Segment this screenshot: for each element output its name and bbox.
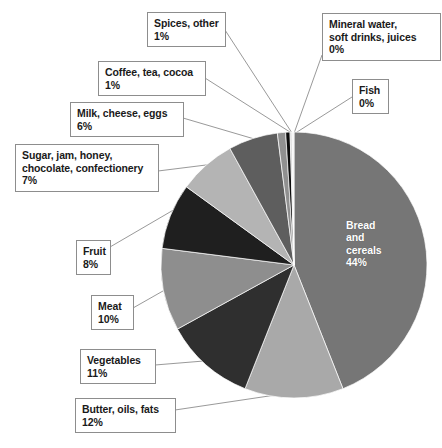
pie-chart-figure: Bread and cereals 44% Spices, other 1% M…	[0, 0, 442, 448]
callout-meat[interactable]: Meat 10%	[91, 295, 134, 330]
callout-mineral-water[interactable]: Mineral water, soft drinks, juices 0%	[322, 13, 441, 61]
callout-vegetables[interactable]: Vegetables 11%	[80, 349, 156, 384]
leader-line-fish	[296, 97, 353, 133]
callout-milk-cheese-eggs[interactable]: Milk, cheese, eggs 6%	[70, 102, 184, 137]
callout-fruit[interactable]: Fruit 8%	[76, 240, 111, 275]
callout-spices-other[interactable]: Spices, other 1%	[147, 12, 226, 47]
leader-line-spices-other	[225, 30, 292, 133]
callout-fish[interactable]: Fish 0%	[352, 79, 389, 114]
callout-butter-oils-fats[interactable]: Butter, oils, fats 12%	[75, 398, 176, 433]
callout-coffee-tea-cocoa[interactable]: Coffee, tea, cocoa 1%	[98, 61, 206, 96]
slice-label-bread-and-cereals: Bread and cereals 44%	[346, 219, 382, 269]
leader-line-mineral-water	[295, 55, 323, 132]
chart-plot-area: Bread and cereals 44% Spices, other 1% M…	[0, 0, 442, 448]
leader-line-coffee-tea-cocoa	[205, 78, 292, 133]
callout-sugar-jam-honey[interactable]: Sugar, jam, honey, chocolate, confection…	[15, 144, 159, 192]
pie-slices-group	[161, 132, 427, 398]
